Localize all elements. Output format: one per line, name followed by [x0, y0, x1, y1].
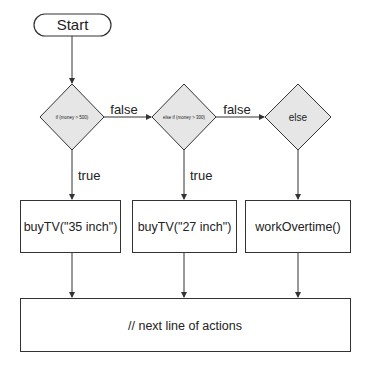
decision-3-label: else — [289, 112, 308, 123]
action-box-3-label: workOvertime() — [254, 220, 340, 234]
edge-true-1-label: true — [78, 168, 100, 183]
edge-true-2-label: true — [190, 168, 212, 183]
flowchart: Start if (money > 500) else if (money > … — [0, 0, 368, 369]
edge-false-2-label: false — [223, 102, 250, 117]
decision-2-label: else if (money > 300) — [163, 115, 206, 120]
next-actions-label: // next line of actions — [128, 319, 242, 333]
start-label: Start — [57, 16, 90, 33]
decision-1-label: if (money > 500) — [56, 115, 89, 120]
action-box-2-label: buyTV("27 inch") — [138, 220, 232, 234]
edge-false-1-label: false — [110, 102, 137, 117]
action-box-1-label: buyTV("35 inch") — [24, 220, 118, 234]
